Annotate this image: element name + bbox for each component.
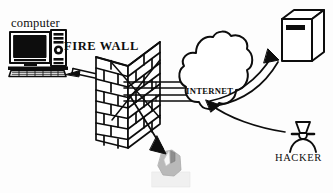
firewall-diagram-canvas: computer FIRE WALL INTERNET HACKER (0, 0, 333, 193)
label-computer: computer (11, 17, 60, 30)
gray-mouse-icon (152, 150, 190, 187)
desktop-computer-icon (8, 30, 68, 77)
masked-person-icon (290, 122, 316, 152)
connector-hacker-to-internet (206, 100, 285, 132)
label-firewall: FIRE WALL (64, 40, 139, 53)
label-hacker: HACKER (275, 153, 322, 164)
server-box-icon (282, 10, 324, 61)
label-internet: INTERNET (186, 87, 233, 96)
